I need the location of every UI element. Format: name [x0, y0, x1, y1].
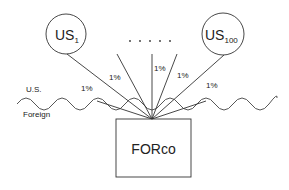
edge-label-us1: 1% — [81, 84, 93, 93]
region-foreign-label: Foreign — [23, 110, 50, 119]
edge-line-us1 — [67, 54, 152, 119]
ellipsis-dots — [129, 40, 171, 42]
ownership-diagram: US1 US100 FORco U.S. Foreign 1% 1% 1% 1%… — [0, 0, 289, 190]
us100-label: US100 — [205, 27, 238, 45]
node-us100: US100 — [202, 13, 244, 55]
border-wave — [17, 96, 277, 110]
node-forco: FORco — [116, 119, 191, 177]
node-us1: US1 — [46, 14, 86, 54]
region-us-label: U.S. — [26, 85, 42, 94]
edge-label-2: 1% — [109, 73, 121, 82]
forco-label: FORco — [131, 141, 176, 157]
edge-label-us100: 1% — [206, 81, 218, 90]
edge-label-4: 1% — [177, 71, 189, 80]
us1-label: US1 — [55, 27, 79, 45]
edge-label-3: 1% — [154, 64, 166, 73]
